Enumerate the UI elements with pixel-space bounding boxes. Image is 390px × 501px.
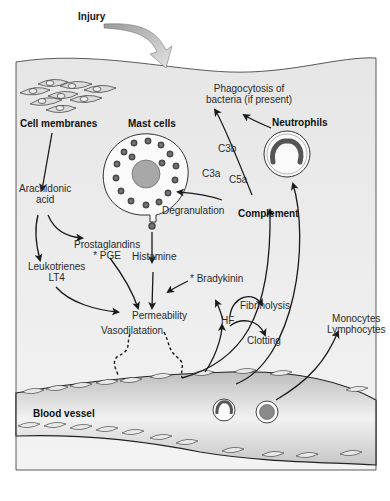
monocytes-lymphocytes-label: Monocytes Lymphocytes bbox=[327, 313, 386, 335]
phagocytosis-line1: Phagocytosis of bbox=[206, 83, 292, 94]
leukotrienes-label: Leukotrienes LT4 bbox=[28, 261, 85, 283]
leukotrienes-line1: Leukotrienes bbox=[28, 261, 85, 272]
c5a-label: C5a bbox=[229, 174, 247, 185]
neutrophil-icon bbox=[264, 131, 310, 177]
leukotrienes-line2: LT4 bbox=[28, 272, 85, 283]
permeability-label: Permeability bbox=[132, 310, 187, 321]
inflammation-diagram: Injury Cell membranes Mast cells Neutrop… bbox=[0, 0, 390, 501]
injury-label: Injury bbox=[78, 11, 105, 22]
vessel-lymphocyte-icon bbox=[256, 401, 278, 423]
prostaglandins-label: Prostaglandins * PGE bbox=[74, 239, 140, 261]
blood-vessel-label: Blood vessel bbox=[33, 408, 95, 419]
cell-membranes-label: Cell membranes bbox=[20, 118, 97, 129]
monocytes-line: Monocytes bbox=[327, 313, 386, 324]
c3a-label: C3a bbox=[202, 168, 220, 179]
bradykinin-label: * Bradykinin bbox=[190, 273, 243, 284]
arachidonic-line2: acid bbox=[19, 194, 71, 205]
clotting-label: Clotting bbox=[247, 335, 281, 346]
histamine-label: Histamine bbox=[132, 251, 176, 262]
complement-label: Complement bbox=[238, 208, 299, 219]
fibrinolysis-label: Fibrinolysis bbox=[240, 300, 290, 311]
mast-cells-label: Mast cells bbox=[128, 118, 176, 129]
vasodilatation-label: Vasodilatation bbox=[101, 325, 163, 336]
diagram-canvas bbox=[0, 0, 390, 501]
prostaglandins-line2: * PGE bbox=[74, 250, 140, 261]
vessel-neutrophil-icon bbox=[213, 399, 235, 421]
neutrophils-label: Neutrophils bbox=[272, 117, 328, 128]
arachidonic-label: Arachidonic acid bbox=[19, 183, 71, 205]
prostaglandins-line1: Prostaglandins bbox=[74, 239, 140, 250]
phagocytosis-line2: bacteria (if present) bbox=[206, 94, 292, 105]
lymphocytes-line: Lymphocytes bbox=[327, 324, 386, 335]
c3b-label: C3b bbox=[218, 143, 236, 154]
degranulation-label: Degranulation bbox=[162, 205, 224, 216]
phagocytosis-label: Phagocytosis of bacteria (if present) bbox=[206, 83, 292, 105]
hf-label: HF bbox=[221, 315, 234, 326]
arachidonic-line1: Arachidonic bbox=[19, 183, 71, 194]
